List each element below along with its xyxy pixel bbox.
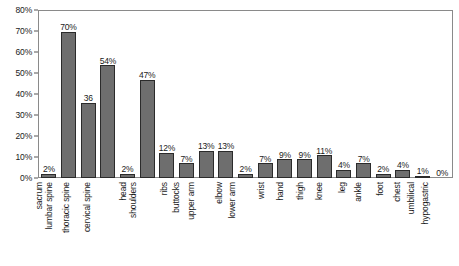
x-axis-label: chest	[393, 182, 402, 202]
x-axis-label: leg	[338, 182, 347, 193]
x-axis-label-slot: wrist	[255, 180, 275, 264]
y-axis-tick-label: 0%	[20, 174, 32, 183]
bar-value-label: 1%	[417, 167, 429, 176]
x-axis-label: shoulders	[129, 182, 138, 218]
x-axis-label: umbilical	[407, 182, 416, 214]
bar-value-label: 2%	[43, 165, 55, 174]
y-axis-tick-label: 40%	[16, 90, 32, 99]
bar-slot: 9%	[275, 11, 295, 178]
x-axis-label: ankle	[354, 182, 363, 202]
bar-value-label: 2%	[240, 165, 252, 174]
bar-slot: 7%	[177, 11, 197, 178]
bar-slot: 9%	[295, 11, 315, 178]
bar: 11%	[317, 155, 332, 178]
bar-slot: 2%	[236, 11, 256, 178]
x-axis-label-slot: foot	[373, 180, 393, 264]
bar-value-label: 9%	[279, 151, 291, 160]
bar: 2%	[41, 174, 56, 178]
x-axis-label: ribs	[160, 182, 169, 195]
x-axis-label-slot: thigh	[295, 180, 315, 264]
bar-value-label: 9%	[299, 151, 311, 160]
bar-value-label: 2%	[377, 165, 389, 174]
y-axis-tick-label: 50%	[16, 69, 32, 78]
bar-value-label: 4%	[338, 161, 350, 170]
x-axis-label-slot: knee	[314, 180, 334, 264]
y-axis-tick-label: 80%	[16, 6, 32, 15]
bar-slot: 47%	[137, 11, 157, 178]
bar: 7%	[179, 163, 194, 178]
bar-value-label: 7%	[181, 155, 193, 164]
x-axis-label: head	[118, 182, 127, 201]
x-axis-label: buttocks	[171, 182, 180, 213]
bar-value-label: 4%	[397, 161, 409, 170]
bar-value-label: 36	[84, 94, 93, 103]
bar: 2%	[376, 174, 391, 178]
bar-value-label: 13%	[198, 142, 214, 151]
x-axis-labels: sacrumlumbar spinethoracic spinecervical…	[39, 180, 452, 264]
bar-slot: 13%	[216, 11, 236, 178]
x-axis-label-slot: upper arm	[196, 180, 216, 264]
bar-value-label: 7%	[358, 155, 370, 164]
x-axis-label-slot: cervical spine	[98, 180, 118, 264]
y-axis-tick-label: 30%	[16, 111, 32, 120]
bar-value-label: 47%	[139, 71, 155, 80]
bar-slot: 36	[78, 11, 98, 178]
bar: 4%	[395, 170, 410, 178]
bar-slot: 7%	[255, 11, 275, 178]
bar-slot: 54%	[98, 11, 118, 178]
bar: 36	[81, 103, 96, 178]
bar-slot: 11%	[314, 11, 334, 178]
bar-slot: 2%	[118, 11, 138, 178]
bar-slot: 7%	[354, 11, 374, 178]
bar: 13%	[199, 151, 214, 178]
x-axis-label: elbow	[215, 182, 224, 204]
bar: 13%	[218, 151, 233, 178]
y-axis-tick-label: 20%	[16, 132, 32, 141]
bars-layer: 2%70%3654%2%47%12%7%13%13%2%7%9%9%11%4%7…	[39, 11, 452, 178]
bar: 12%	[159, 153, 174, 178]
bar: 1%	[415, 176, 430, 178]
bar-slot: 13%	[196, 11, 216, 178]
y-axis: 0%10%20%30%40%50%60%70%80%	[0, 10, 38, 178]
x-axis-label-slot: hypogastric	[432, 180, 452, 264]
y-axis-tick-label: 70%	[16, 27, 32, 36]
x-axis-label: wrist	[257, 182, 266, 199]
x-axis-label-slot: leg	[334, 180, 354, 264]
bar: 4%	[336, 170, 351, 178]
x-axis-label-slot: hand	[275, 180, 295, 264]
bar: 7%	[356, 163, 371, 178]
x-axis-label: foot	[376, 182, 385, 196]
bar-value-label: 0%	[436, 169, 448, 178]
x-axis-label: cervical spine	[83, 182, 92, 232]
bar-value-label: 70%	[60, 23, 76, 32]
bar-slot: 2%	[373, 11, 393, 178]
bar: 9%	[277, 159, 292, 178]
x-axis-label: thoracic spine	[63, 182, 72, 233]
bar-value-label: 12%	[159, 144, 175, 153]
bar: 9%	[297, 159, 312, 178]
x-axis-label: knee	[315, 182, 324, 200]
bar-value-label: 13%	[218, 142, 234, 151]
x-axis-label: sacrum	[35, 182, 44, 209]
bar-chart: 0%10%20%30%40%50%60%70%80% 2%70%3654%2%4…	[0, 0, 459, 266]
bar-slot: 4%	[334, 11, 354, 178]
bar-value-label: 11%	[316, 147, 332, 156]
bar-value-label: 54%	[100, 57, 116, 66]
bar-value-label: 7%	[259, 155, 271, 164]
x-axis-label-slot: ankle	[354, 180, 374, 264]
bar-slot: 0%	[432, 11, 452, 178]
bar: 7%	[258, 163, 273, 178]
bar-value-label: 2%	[122, 165, 134, 174]
bar-slot: 4%	[393, 11, 413, 178]
bar: 47%	[140, 80, 155, 178]
x-axis-label: thigh	[296, 182, 305, 200]
y-axis-tick-label: 10%	[16, 153, 32, 162]
x-axis-label: lower arm	[227, 182, 236, 218]
x-axis-label: hand	[276, 182, 285, 201]
bar: 2%	[238, 174, 253, 178]
bar: 70%	[61, 32, 76, 178]
bar-slot: 1%	[413, 11, 433, 178]
x-axis-label-slot: shoulders	[137, 180, 157, 264]
bar-slot: 12%	[157, 11, 177, 178]
bar-slot: 2%	[39, 11, 59, 178]
